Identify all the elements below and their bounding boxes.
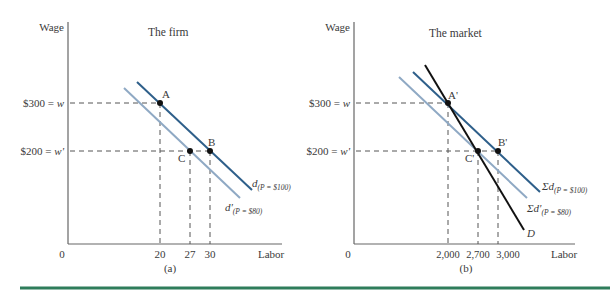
market-label-a-prime: A' — [448, 89, 458, 101]
firm-y-tick-200: $200 = w' — [21, 145, 65, 157]
market-curve-sum-d — [413, 72, 540, 192]
firm-x-tick-30: 30 — [205, 248, 217, 260]
market-label-c-prime: C' — [465, 152, 474, 164]
firm-point-a — [157, 100, 163, 106]
firm-guides — [70, 103, 210, 244]
market-curve-sum-d-label: Σd(P = $100) — [541, 180, 588, 195]
firm-label-c: C — [178, 152, 185, 164]
firm-label-b: B — [208, 136, 215, 148]
firm-label-a: A — [162, 88, 170, 100]
firm-x-tick-27: 27 — [185, 248, 197, 260]
firm-origin: 0 — [59, 248, 65, 260]
firm-y-label: Wage — [39, 21, 64, 33]
firm-curve-d-prime — [124, 88, 240, 198]
firm-caption: (a) — [164, 262, 177, 275]
market-y-tick-200: $200 = w' — [307, 145, 351, 157]
firm-point-b — [207, 148, 213, 154]
figure: Wage The firm 0 Labor (a) $300 = w $200 … — [0, 0, 610, 297]
market-title: The market — [429, 27, 482, 39]
firm-curve-d — [137, 82, 252, 190]
firm-point-c — [187, 148, 193, 154]
market-curve-D-label: D — [526, 227, 535, 239]
firm-x-label: Labor — [258, 248, 285, 260]
market-x-tick-3000: 3,000 — [496, 249, 520, 260]
market-caption: (b) — [460, 262, 473, 275]
panel-firm: Wage The firm 0 Labor (a) $300 = w $200 … — [21, 21, 292, 275]
firm-y-tick-300: $300 = w — [23, 97, 65, 109]
market-x-tick-2700: 2,700 — [466, 249, 490, 260]
firm-curve-d-prime-label: d'(P = $80) — [225, 201, 263, 216]
panel-market: Wage The market 0 Labor (b) $300 = w $20… — [307, 21, 588, 275]
market-curve-D — [425, 65, 524, 230]
market-y-label: Wage — [325, 21, 350, 33]
market-point-b-prime — [495, 148, 501, 154]
market-origin: 0 — [345, 248, 351, 260]
market-label-b-prime: B' — [498, 136, 507, 148]
market-y-tick-300: $300 = w — [309, 97, 351, 109]
market-curve-sum-d-prime-label: Σd'(P = $80) — [526, 202, 571, 217]
firm-curve-d-label: d(P = $100) — [252, 177, 291, 192]
firm-x-tick-20: 20 — [155, 248, 167, 260]
market-curve-sum-d-prime — [399, 77, 527, 198]
market-guides — [356, 103, 498, 244]
market-point-c-prime — [475, 148, 481, 154]
market-x-tick-2000: 2,000 — [436, 249, 460, 260]
market-x-label: Labor — [551, 248, 578, 260]
firm-title: The firm — [148, 26, 189, 38]
